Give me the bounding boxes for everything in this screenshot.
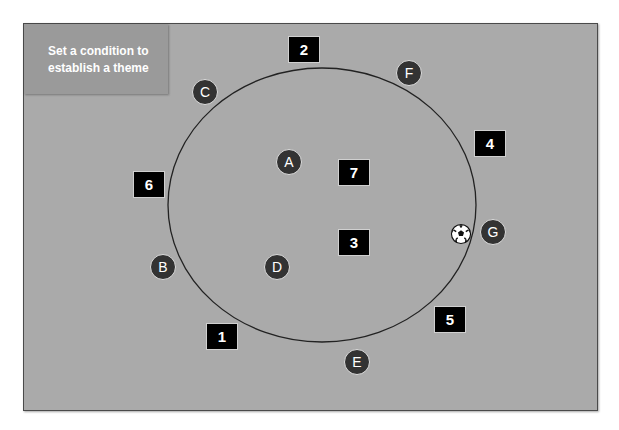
player-e: E (344, 349, 370, 375)
zone-box-5: 5 (434, 306, 466, 333)
zone-box-7: 7 (338, 159, 370, 186)
player-a: A (276, 149, 302, 175)
zone-box-6: 6 (133, 171, 165, 198)
player-g: G (480, 219, 506, 245)
theme-label-box: Set a condition to establish a theme (24, 24, 168, 94)
zone-box-2: 2 (288, 36, 320, 63)
zone-box-4: 4 (474, 130, 506, 157)
player-b: B (150, 254, 176, 280)
theme-label-text: Set a condition to establish a theme (48, 43, 160, 77)
zone-box-3: 3 (338, 229, 370, 256)
soccer-ball-icon (451, 224, 472, 245)
player-f: F (396, 60, 422, 86)
player-d: D (264, 254, 290, 280)
player-c: C (192, 79, 218, 105)
zone-box-1: 1 (206, 323, 238, 350)
